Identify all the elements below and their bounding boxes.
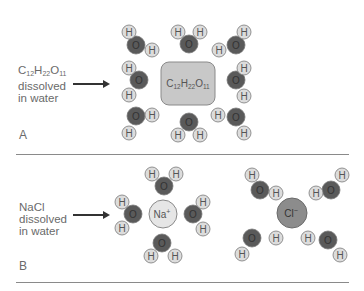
- hydrogen-atom: H: [122, 126, 136, 140]
- water-molecule: OHH: [309, 168, 349, 200]
- svg-text:H: H: [148, 169, 155, 180]
- hydrogen-atom: H: [237, 89, 251, 103]
- hydrogen-atom: H: [211, 108, 225, 122]
- svg-text:O: O: [256, 185, 264, 196]
- svg-text:O: O: [324, 235, 332, 246]
- hydrogen-atom: H: [335, 168, 349, 182]
- svg-text:O: O: [129, 209, 137, 220]
- svg-text:H: H: [172, 169, 179, 180]
- svg-text:O: O: [327, 185, 335, 196]
- svg-text:H: H: [148, 110, 155, 121]
- hydrogen-atom: H: [168, 249, 182, 263]
- svg-text:H: H: [248, 170, 255, 181]
- svg-text:H: H: [199, 197, 206, 208]
- hydrogen-atom: H: [269, 186, 283, 200]
- oxygen-atom: O: [153, 234, 171, 252]
- water-molecule: OHH: [211, 108, 251, 140]
- hydrogen-atom: H: [301, 231, 315, 245]
- hydrogen-atom: H: [235, 247, 249, 261]
- chloride-ion: Cl−: [277, 198, 307, 228]
- hydrogen-atom: H: [122, 88, 136, 102]
- oxygen-atom: O: [319, 231, 337, 249]
- oxygen-atom: O: [322, 181, 340, 199]
- hydrogen-atom: H: [196, 195, 210, 209]
- oxygen-atom: O: [155, 177, 173, 195]
- svg-text:H: H: [240, 27, 247, 38]
- svg-text:O: O: [232, 112, 240, 123]
- hydrogen-atom: H: [115, 221, 129, 235]
- svg-text:H: H: [240, 128, 247, 139]
- svg-text:H: H: [240, 91, 247, 102]
- oxygen-atom: O: [227, 108, 245, 126]
- svg-text:H: H: [215, 45, 222, 56]
- water-molecule: OHH: [235, 229, 283, 261]
- water-molecule: OHH: [145, 167, 183, 195]
- hydrogen-atom: H: [193, 128, 207, 142]
- svg-text:O: O: [232, 40, 240, 51]
- svg-text:O: O: [248, 233, 256, 244]
- svg-text:H: H: [125, 63, 132, 74]
- svg-text:H: H: [272, 233, 279, 244]
- svg-text:H: H: [199, 224, 206, 235]
- hydrogen-atom: H: [269, 231, 283, 245]
- hydrogen-atom: H: [122, 61, 136, 75]
- water-molecule: OHH: [227, 61, 251, 103]
- oxygen-atom: O: [243, 229, 261, 247]
- svg-text:O: O: [158, 238, 166, 249]
- water-molecule: OHH: [144, 234, 182, 263]
- hydrogen-atom: H: [169, 167, 183, 181]
- oxygen-atom: O: [127, 107, 145, 125]
- sucrose-molecule: C12H22O11: [161, 62, 215, 105]
- svg-text:H: H: [338, 170, 345, 181]
- svg-text:H: H: [125, 27, 132, 38]
- svg-text:O: O: [185, 39, 193, 50]
- svg-text:H: H: [174, 27, 181, 38]
- svg-text:H: H: [336, 250, 343, 261]
- hydrogen-atom: H: [309, 186, 323, 200]
- svg-text:O: O: [135, 75, 143, 86]
- hydrogen-atom: H: [245, 168, 259, 182]
- water-molecule: OHH: [122, 61, 148, 102]
- hydrogen-atom: H: [145, 43, 159, 57]
- hydrogen-atom: H: [171, 25, 185, 39]
- hydrogen-atom: H: [122, 25, 136, 39]
- svg-text:H: H: [125, 128, 132, 139]
- hydrogen-atom: H: [144, 249, 158, 263]
- svg-text:H: H: [196, 27, 203, 38]
- water-molecule: OHH: [212, 25, 251, 57]
- svg-text:H: H: [171, 251, 178, 262]
- svg-text:H: H: [238, 249, 245, 260]
- svg-text:O: O: [160, 181, 168, 192]
- water-molecule: OHH: [245, 168, 283, 200]
- water-molecule: OHH: [122, 107, 159, 140]
- oxygen-atom: O: [180, 113, 198, 131]
- svg-text:H: H: [118, 223, 125, 234]
- water-molecule: OHH: [171, 113, 207, 142]
- water-molecule: OHH: [171, 25, 207, 53]
- hydrogen-atom: H: [171, 128, 185, 142]
- svg-text:O: O: [232, 75, 240, 86]
- hydrogen-atom: H: [193, 25, 207, 39]
- hydrogen-atom: H: [212, 43, 226, 57]
- svg-text:O: O: [185, 117, 193, 128]
- svg-text:H: H: [272, 188, 279, 199]
- svg-text:O: O: [132, 111, 140, 122]
- water-molecule: OHH: [184, 195, 210, 236]
- svg-text:H: H: [214, 110, 221, 121]
- hydrogen-atom: H: [333, 248, 347, 262]
- hydrogen-atom: H: [237, 126, 251, 140]
- water-molecule: OHH: [301, 231, 347, 262]
- svg-text:H: H: [125, 90, 132, 101]
- hydrogen-atom: H: [145, 108, 159, 122]
- water-molecule: OHH: [122, 25, 159, 57]
- svg-text:O: O: [132, 40, 140, 51]
- svg-text:H: H: [196, 130, 203, 141]
- water-molecule: OHH: [115, 195, 142, 235]
- hydrogen-atom: H: [145, 167, 159, 181]
- svg-text:O: O: [189, 209, 197, 220]
- hydrogen-atom: H: [237, 25, 251, 39]
- molecule-diagram: OHHOHHOHHOHHOHHOHHOHHOHHC12H22O11OHHOHHO…: [0, 0, 364, 291]
- svg-text:H: H: [312, 188, 319, 199]
- svg-text:H: H: [118, 197, 125, 208]
- hydrogen-atom: H: [115, 195, 129, 209]
